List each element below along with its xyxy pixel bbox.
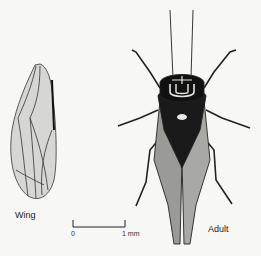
scale-bar-end-label: 1 mm xyxy=(122,230,140,237)
illustration xyxy=(0,0,261,256)
wing-label: Wing xyxy=(15,210,36,220)
figure: Wing Adult 0 1 mm xyxy=(0,0,261,256)
scale-bar xyxy=(73,220,125,227)
scale-bar-start-label: 0 xyxy=(71,230,75,237)
wing-drawing xyxy=(11,64,56,199)
adult-label: Adult xyxy=(208,224,229,234)
adult-insect-drawing xyxy=(118,10,250,244)
